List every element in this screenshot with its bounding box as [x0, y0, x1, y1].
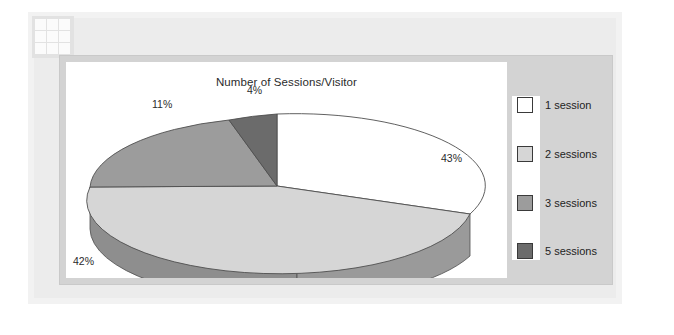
slice-label-5-sessions: 4% [247, 84, 262, 96]
legend-item-1-session[interactable]: 1 session [512, 96, 591, 114]
legend-label-5-sessions: 5 sessions [545, 245, 597, 257]
slice-label-2-sessions: 42% [73, 255, 94, 267]
grid-3x3-icon [32, 16, 74, 58]
legend-swatch-1-session [517, 97, 533, 113]
legend-swatch-5-sessions [517, 243, 533, 259]
legend-label-2-sessions: 2 sessions [545, 148, 597, 160]
slice-label-1-session: 43% [441, 152, 462, 164]
legend-label-1-session: 1 session [545, 99, 591, 111]
legend-swatch-2-sessions [517, 146, 533, 162]
page-root: Number of Sessions/Visitor 43% 42% 11% 4… [0, 0, 674, 335]
legend-item-2-sessions[interactable]: 2 sessions [512, 145, 597, 163]
chart-legend: 1 session 2 sessions 3 sessions 5 sessio… [512, 96, 616, 260]
legend-item-3-sessions[interactable]: 3 sessions [512, 194, 597, 212]
pie-chart-3d [66, 62, 507, 278]
chart-plot-area: Number of Sessions/Visitor 43% 42% 11% 4… [66, 62, 507, 278]
legend-item-5-sessions[interactable]: 5 sessions [512, 242, 597, 260]
legend-label-3-sessions: 3 sessions [545, 197, 597, 209]
slice-label-3-sessions: 11% [152, 98, 172, 110]
legend-swatch-3-sessions [517, 195, 533, 211]
